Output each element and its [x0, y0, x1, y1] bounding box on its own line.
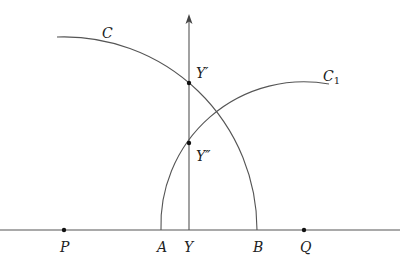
- geometry-diagram: PAYBQY′Y″ C C1: [0, 0, 410, 272]
- arc-c: [57, 37, 257, 230]
- point-ypp-dot: [187, 141, 191, 145]
- arc-c1-label: C1: [323, 68, 340, 86]
- arc-c-label: C: [102, 25, 113, 41]
- point-b-label: B: [252, 239, 263, 255]
- point-a-label: A: [155, 239, 167, 255]
- point-p-label: P: [59, 239, 70, 255]
- arc-c1-label-main: C: [323, 68, 334, 84]
- point-y-label: Y: [184, 239, 195, 255]
- point-labels: PAYBQY′Y″: [59, 65, 312, 255]
- point-dots: [62, 81, 306, 232]
- point-q-dot: [302, 228, 306, 232]
- point-ypp-label: Y″: [196, 148, 211, 164]
- arc-c1: [161, 82, 329, 230]
- point-p-dot: [62, 228, 66, 232]
- point-yp-label: Y′: [196, 65, 209, 81]
- point-q-label: Q: [300, 239, 312, 255]
- arc-c1-label-subscript: 1: [334, 75, 340, 86]
- point-yp-dot: [187, 81, 191, 85]
